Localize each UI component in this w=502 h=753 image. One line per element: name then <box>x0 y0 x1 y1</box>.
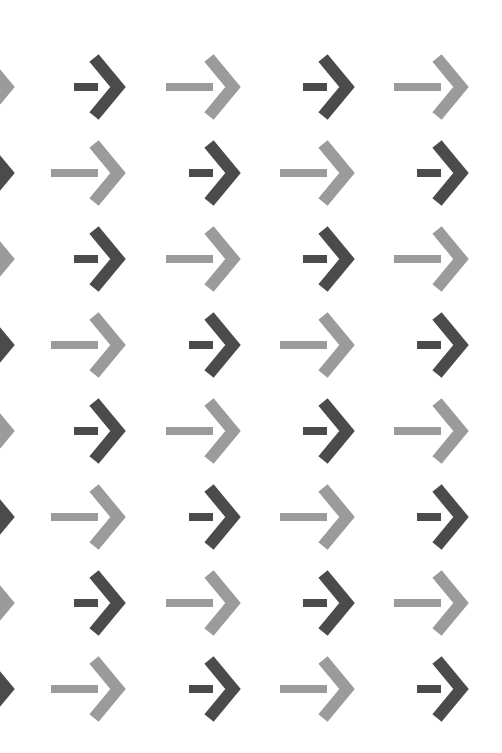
arrow-row <box>0 574 461 632</box>
arrow-row <box>0 488 461 546</box>
arrow-shaft <box>166 599 213 607</box>
arrow-right-icon <box>166 574 233 632</box>
arrow-shaft <box>74 83 98 91</box>
arrow-right-icon <box>280 488 347 546</box>
arrow-right-icon <box>394 574 461 632</box>
arrow-right-icon <box>0 488 7 546</box>
arrow-shaft <box>280 513 327 521</box>
arrow-right-icon <box>0 58 7 116</box>
arrow-shaft <box>394 599 441 607</box>
arrow-shaft <box>74 599 98 607</box>
arrow-row <box>0 660 461 718</box>
arrow-row <box>0 144 461 202</box>
arrow-right-icon <box>74 58 118 116</box>
arrow-right-icon <box>280 144 347 202</box>
arrow-right-icon <box>74 230 118 288</box>
arrow-shaft <box>74 427 98 435</box>
arrow-right-icon <box>189 144 233 202</box>
arrow-right-icon <box>0 402 7 460</box>
arrow-right-icon <box>417 660 461 718</box>
arrow-right-icon <box>0 316 7 374</box>
arrow-row <box>0 316 461 374</box>
arrow-right-icon <box>394 58 461 116</box>
arrow-shaft <box>280 169 327 177</box>
chevron-icon <box>0 574 7 632</box>
arrow-row <box>0 58 461 116</box>
arrow-right-icon <box>189 488 233 546</box>
arrow-right-icon <box>303 402 347 460</box>
chevron-icon <box>0 316 7 374</box>
arrow-right-icon <box>417 144 461 202</box>
arrow-shaft <box>417 513 441 521</box>
arrow-shaft <box>166 255 213 263</box>
arrow-right-icon <box>51 316 118 374</box>
arrow-shaft <box>394 427 441 435</box>
arrow-illusion-canvas <box>0 0 502 753</box>
arrow-shaft <box>51 341 98 349</box>
arrow-shaft <box>189 341 213 349</box>
arrow-right-icon <box>189 316 233 374</box>
arrow-right-icon <box>74 402 118 460</box>
arrow-shaft <box>417 685 441 693</box>
arrow-shaft <box>394 255 441 263</box>
arrow-right-icon <box>74 574 118 632</box>
arrow-shaft <box>417 169 441 177</box>
arrow-right-icon <box>303 58 347 116</box>
arrow-shaft <box>303 427 327 435</box>
chevron-icon <box>0 144 7 202</box>
arrow-right-icon <box>417 488 461 546</box>
arrow-right-icon <box>303 230 347 288</box>
arrow-shaft <box>303 255 327 263</box>
chevron-icon <box>0 230 7 288</box>
arrow-right-icon <box>394 230 461 288</box>
arrow-row <box>0 230 461 288</box>
arrow-shaft <box>189 685 213 693</box>
arrow-right-icon <box>280 316 347 374</box>
chevron-icon <box>0 660 7 718</box>
arrow-shaft <box>280 341 327 349</box>
arrow-right-icon <box>0 574 7 632</box>
arrow-right-icon <box>394 402 461 460</box>
arrow-right-icon <box>166 58 233 116</box>
arrow-right-icon <box>280 660 347 718</box>
arrow-shaft <box>51 685 98 693</box>
arrow-right-icon <box>51 488 118 546</box>
arrow-right-icon <box>303 574 347 632</box>
arrow-shaft <box>303 599 327 607</box>
arrow-right-icon <box>417 316 461 374</box>
arrow-row <box>0 402 461 460</box>
arrow-right-icon <box>0 144 7 202</box>
arrow-right-icon <box>51 660 118 718</box>
arrow-right-icon <box>0 230 7 288</box>
arrow-shaft <box>417 341 441 349</box>
arrow-right-icon <box>51 144 118 202</box>
arrow-shaft <box>280 685 327 693</box>
chevron-icon <box>0 402 7 460</box>
arrow-shaft <box>166 83 213 91</box>
arrow-shaft <box>51 169 98 177</box>
arrow-shaft <box>394 83 441 91</box>
arrow-shaft <box>74 255 98 263</box>
arrow-shaft <box>189 169 213 177</box>
arrow-right-icon <box>166 402 233 460</box>
arrow-shaft <box>303 83 327 91</box>
chevron-icon <box>0 58 7 116</box>
chevron-icon <box>0 488 7 546</box>
arrow-right-icon <box>189 660 233 718</box>
arrow-right-icon <box>166 230 233 288</box>
arrow-shaft <box>51 513 98 521</box>
arrow-shaft <box>189 513 213 521</box>
arrow-right-icon <box>0 660 7 718</box>
arrow-shaft <box>166 427 213 435</box>
